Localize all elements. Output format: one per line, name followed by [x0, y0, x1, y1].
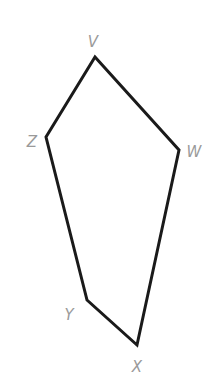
vertex-label-v: V: [88, 33, 100, 51]
vertex-label-y: Y: [64, 306, 75, 324]
vertex-label-z: Z: [26, 133, 38, 151]
vertex-label-w: W: [187, 143, 203, 161]
pentagon-vwxyz: [46, 57, 179, 345]
vertex-label-x: X: [131, 358, 143, 376]
pentagon-diagram: V W X Y Z: [0, 0, 218, 384]
